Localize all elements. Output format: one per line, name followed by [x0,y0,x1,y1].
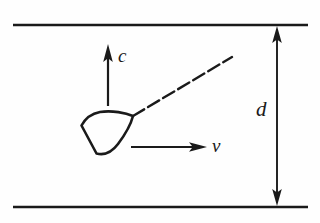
oar-channel-figure: c v d [0,0,320,223]
arrow-v [131,142,207,152]
label-channel-width-d: d [256,99,267,120]
arrow-c [103,44,113,106]
figure-canvas [0,0,320,223]
label-flow-velocity-v: v [212,136,220,155]
dimension-arrow-d [272,26,282,206]
oar-blade-outline [82,111,134,154]
label-blade-velocity-c: c [118,46,126,65]
oar-shaft-dashed-line [133,57,232,116]
